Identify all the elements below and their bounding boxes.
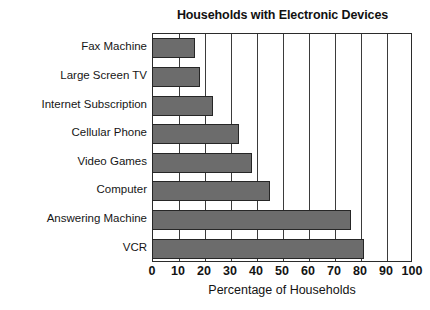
x-axis-tick-labels: 0102030405060708090100 bbox=[0, 264, 430, 282]
chart-title: Households with Electronic Devices bbox=[150, 8, 415, 22]
plot-area bbox=[152, 33, 412, 262]
bar-row bbox=[153, 67, 413, 87]
bar bbox=[152, 67, 200, 87]
bar bbox=[152, 181, 270, 201]
bar-row bbox=[153, 239, 413, 259]
x-tick-label: 20 bbox=[197, 264, 211, 278]
category-label: Fax Machine bbox=[0, 40, 147, 53]
bar bbox=[152, 124, 239, 144]
x-tick-label: 60 bbox=[301, 264, 315, 278]
x-tick-label: 30 bbox=[223, 264, 237, 278]
category-label: Video Games bbox=[0, 155, 147, 168]
bar bbox=[152, 38, 195, 58]
bar-row bbox=[153, 210, 413, 230]
x-tick-label: 0 bbox=[149, 264, 156, 278]
bar-row bbox=[153, 181, 413, 201]
bar-row bbox=[153, 38, 413, 58]
x-tick-label: 70 bbox=[327, 264, 341, 278]
bar-row bbox=[153, 124, 413, 144]
bar bbox=[152, 96, 213, 116]
x-tick-label: 90 bbox=[379, 264, 393, 278]
x-tick-label: 10 bbox=[171, 264, 185, 278]
category-label: Large Screen TV bbox=[0, 69, 147, 82]
bar-row bbox=[153, 96, 413, 116]
category-label: Cellular Phone bbox=[0, 126, 147, 139]
x-axis-label: Percentage of Households bbox=[152, 283, 412, 297]
category-label: Internet Subscription bbox=[0, 98, 147, 111]
x-tick-label: 40 bbox=[249, 264, 263, 278]
bar bbox=[152, 210, 351, 230]
category-label: Answering Machine bbox=[0, 212, 147, 225]
category-label: VCR bbox=[0, 241, 147, 254]
bar bbox=[152, 153, 252, 173]
bars-layer bbox=[153, 34, 411, 261]
category-label: Computer bbox=[0, 183, 147, 196]
x-tick-label: 50 bbox=[275, 264, 289, 278]
category-axis-labels: Fax MachineLarge Screen TVInternet Subsc… bbox=[0, 33, 147, 262]
x-tick-label: 100 bbox=[402, 264, 423, 278]
bar-chart-figure: Households with Electronic Devices Fax M… bbox=[0, 0, 430, 310]
x-tick-label: 80 bbox=[353, 264, 367, 278]
bar bbox=[152, 239, 364, 259]
bar-row bbox=[153, 153, 413, 173]
